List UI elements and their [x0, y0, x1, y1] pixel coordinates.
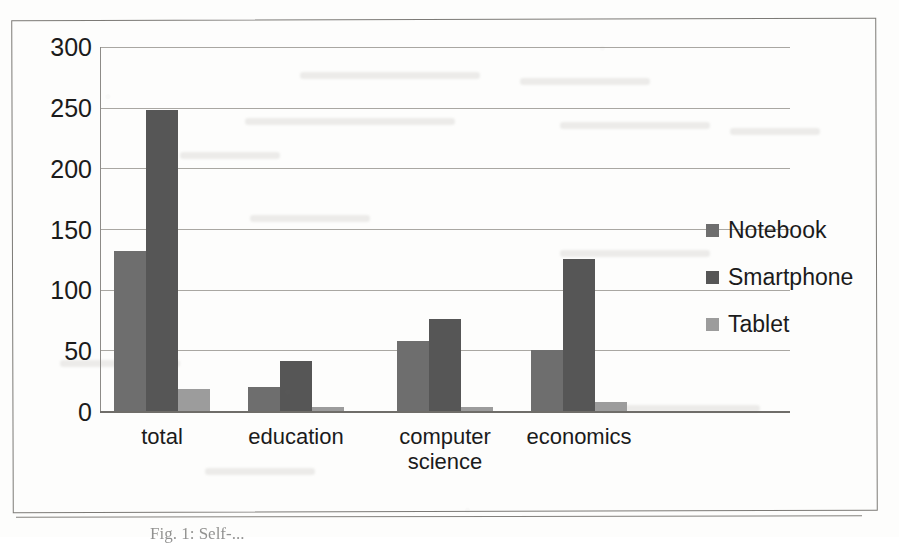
legend-item-tablet[interactable]: Tablet	[706, 301, 853, 348]
y-tick-label-50: 50	[18, 339, 92, 364]
y-tick-label-300: 300	[18, 35, 92, 60]
y-axis-line	[100, 47, 101, 411]
bar-computer-science-smartphone	[429, 319, 461, 411]
gridline-200	[100, 168, 790, 169]
x-label-economics: economics	[519, 425, 639, 450]
x-label-computer-science-line2: science	[408, 449, 483, 474]
gridline-300	[100, 47, 790, 48]
gridline-150	[100, 229, 790, 230]
chart-legend: Notebook Smartphone Tablet	[706, 207, 853, 348]
legend-item-notebook[interactable]: Notebook	[706, 207, 853, 254]
x-axis-line	[100, 411, 790, 413]
y-tick-label-250: 250	[18, 96, 92, 121]
legend-swatch-icon-tablet	[706, 318, 719, 331]
bar-education-tablet	[312, 407, 344, 411]
x-label-computer-science: computer science	[385, 425, 505, 474]
y-tick-label-100: 100	[18, 278, 92, 303]
x-label-economics-line1: economics	[526, 424, 631, 449]
gridline-100	[100, 290, 790, 291]
bar-total-notebook	[114, 251, 146, 411]
y-tick-label-150: 150	[18, 218, 92, 243]
x-label-education-line1: education	[248, 424, 343, 449]
legend-item-smartphone[interactable]: Smartphone	[706, 254, 853, 301]
bar-economics-tablet	[595, 402, 627, 411]
x-label-total-line1: total	[141, 424, 183, 449]
y-tick-label-0: 0	[18, 400, 92, 425]
bar-computer-science-tablet	[461, 407, 493, 411]
legend-swatch-icon-smartphone	[706, 271, 719, 284]
bar-education-notebook	[248, 387, 280, 411]
figure-caption: Fig. 1: Self-...	[150, 524, 790, 544]
legend-label-notebook: Notebook	[728, 219, 826, 242]
legend-label-smartphone: Smartphone	[728, 266, 853, 289]
legend-swatch-icon-notebook	[706, 224, 719, 237]
y-tick-label-200: 200	[18, 157, 92, 182]
bar-economics-smartphone	[563, 259, 595, 411]
bar-education-smartphone	[280, 361, 312, 411]
bar-total-smartphone	[146, 110, 178, 411]
x-label-computer-science-line1: computer	[399, 424, 491, 449]
gridline-250	[100, 108, 790, 109]
bar-total-tablet	[178, 389, 210, 411]
legend-label-tablet: Tablet	[728, 313, 789, 336]
x-label-education: education	[236, 425, 356, 450]
bar-economics-notebook	[531, 350, 563, 411]
x-label-total: total	[102, 425, 222, 450]
bar-computer-science-notebook	[397, 341, 429, 411]
